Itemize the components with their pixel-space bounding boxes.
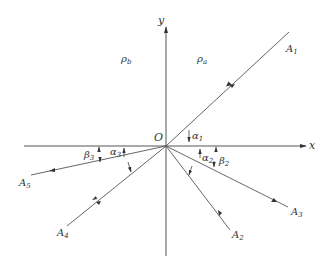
arrow-a4b-icon bbox=[92, 196, 97, 200]
y-axis-label: y bbox=[157, 14, 165, 27]
angle-label-beta3: β3 bbox=[83, 149, 95, 162]
ray-label-a2: A2 bbox=[231, 229, 244, 242]
ray-label-a1: A1 bbox=[285, 43, 298, 56]
ray-a1 bbox=[166, 32, 289, 146]
angle-label-beta2: β2 bbox=[218, 155, 230, 168]
angle-label-alpha3: α3 bbox=[110, 146, 122, 159]
angle-a4-mark bbox=[128, 162, 131, 172]
origin-label: O bbox=[154, 131, 163, 144]
ray-label-a5: A5 bbox=[18, 177, 31, 190]
ray-a3 bbox=[166, 146, 288, 207]
ray-label-a3: A3 bbox=[290, 206, 303, 219]
angle-a2-mark bbox=[189, 166, 192, 175]
region-a-density: ρa bbox=[196, 53, 207, 66]
region-b-density: ρb bbox=[120, 53, 132, 66]
ray-label-a4: A4 bbox=[56, 227, 69, 240]
shock-wave-diagram: y x O ρb ρa A1 A2 A3 A4 A5 α1 α2 β2 α3 β… bbox=[0, 0, 332, 266]
x-axis-label: x bbox=[309, 139, 316, 152]
diagram-canvas: y x O ρb ρa A1 A2 A3 A4 A5 α1 α2 β2 α3 β… bbox=[0, 0, 332, 266]
angle-label-alpha2: α2 bbox=[202, 152, 214, 165]
angle-label-alpha1: α1 bbox=[192, 130, 203, 143]
